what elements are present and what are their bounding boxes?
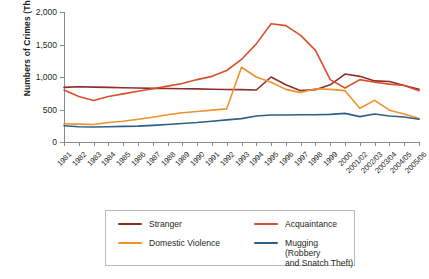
x-tick <box>94 142 95 146</box>
x-tick-label: 1991 <box>203 150 221 168</box>
x-tick <box>256 142 257 146</box>
x-tick-label: 1987 <box>144 150 162 168</box>
x-tick <box>182 142 183 146</box>
x-tick <box>153 142 154 146</box>
legend-item-domestic-violence[interactable]: Domestic Violence <box>118 238 220 248</box>
legend: Stranger Domestic Violence Acquaintance … <box>105 210 355 266</box>
x-tick <box>108 142 109 146</box>
y-axis-title: Numbers of Crimes (Thousands) <box>22 0 32 104</box>
legend-item-stranger[interactable]: Stranger <box>118 219 220 229</box>
legend-label-stranger: Stranger <box>149 219 182 229</box>
x-tick <box>79 142 80 146</box>
x-tick <box>301 142 302 146</box>
x-tick <box>242 142 243 146</box>
plot-area: 05001,0001,5002,000 19811982198319841985… <box>64 12 419 142</box>
y-tick-label: 1,000 <box>36 72 57 82</box>
legend-column-right: Acquaintance Mugging (Robbery and Snatch… <box>254 219 354 277</box>
x-tick <box>227 142 228 146</box>
legend-label-domestic-violence: Domestic Violence <box>149 238 220 248</box>
x-tick-label: 1994 <box>248 150 266 168</box>
chart-root: Numbers of Crimes (Thousands) 05001,0001… <box>0 0 429 279</box>
series-line <box>64 113 419 127</box>
legend-swatch-domestic-violence <box>118 242 142 244</box>
legend-item-mugging[interactable]: Mugging (Robbery and Snatch Theft) <box>254 238 354 268</box>
x-tick <box>315 142 316 146</box>
x-tick <box>138 142 139 146</box>
x-tick-label: 1986 <box>129 150 147 168</box>
x-tick <box>123 142 124 146</box>
x-tick-label: 1981 <box>55 150 73 168</box>
x-tick-label: 1985 <box>114 150 132 168</box>
legend-label-acquaintance: Acquaintance <box>285 219 337 229</box>
x-tick-label: 1990 <box>188 150 206 168</box>
x-tick-label: 1989 <box>174 150 192 168</box>
x-tick <box>360 142 361 146</box>
series-line <box>64 74 419 91</box>
legend-label-mugging: Mugging (Robbery and Snatch Theft) <box>285 238 354 268</box>
y-tick-label: 0 <box>52 137 57 147</box>
x-tick <box>404 142 405 146</box>
x-tick-label: 1996 <box>277 150 295 168</box>
y-tick-label: 500 <box>43 105 57 115</box>
legend-column-left: Stranger Domestic Violence <box>118 219 220 257</box>
x-tick <box>197 142 198 146</box>
legend-swatch-mugging <box>254 242 278 244</box>
x-tick-label: 1982 <box>70 150 88 168</box>
x-tick <box>168 142 169 146</box>
x-tick <box>419 142 420 146</box>
legend-item-acquaintance[interactable]: Acquaintance <box>254 219 354 229</box>
series-lines <box>64 12 419 142</box>
legend-swatch-stranger <box>118 223 142 225</box>
legend-swatch-acquaintance <box>254 223 278 225</box>
x-tick <box>375 142 376 146</box>
x-tick <box>330 142 331 146</box>
y-tick-label: 2,000 <box>36 7 57 17</box>
x-tick <box>271 142 272 146</box>
x-tick-label: 1992 <box>218 150 236 168</box>
x-tick <box>212 142 213 146</box>
x-tick <box>345 142 346 146</box>
x-tick-label: 1995 <box>262 150 280 168</box>
x-tick <box>389 142 390 146</box>
x-tick <box>64 142 65 146</box>
x-tick-label: 1999 <box>322 150 340 168</box>
x-tick <box>286 142 287 146</box>
y-tick-label: 1,500 <box>36 40 57 50</box>
